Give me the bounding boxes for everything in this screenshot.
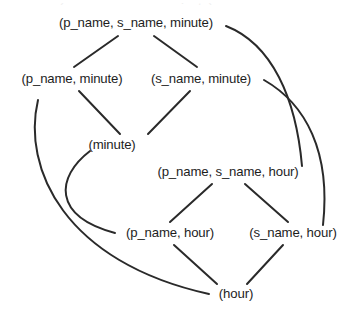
node-p_name-hour: (p_name, hour) bbox=[126, 226, 214, 239]
edge-snhr-hr bbox=[247, 245, 283, 284]
edge-pnmin-hr bbox=[35, 100, 209, 294]
edge-pnsnmin-pnsnhr bbox=[226, 26, 302, 166]
edge-pnsnmin-snmin bbox=[154, 36, 197, 67]
node-p_name-s_name-hour: (p_name, s_name, hour) bbox=[157, 165, 298, 178]
edge-snmin-snhr bbox=[264, 80, 324, 225]
edge-pnmin-min bbox=[79, 91, 120, 134]
node-s_name-hour: (s_name, hour) bbox=[249, 226, 336, 239]
edge-pnsnmin-pnmin bbox=[74, 36, 118, 67]
edge-min-pnhr bbox=[66, 151, 115, 233]
lattice-edges bbox=[0, 0, 355, 315]
node-p_name-s_name-minute: (p_name, s_name, minute) bbox=[59, 16, 213, 29]
edge-pnsnhr-pnhr bbox=[170, 184, 212, 222]
lattice-diagram: (p_name, s_name, minute) (p_name, s_name… bbox=[0, 0, 355, 315]
node-hour: (hour) bbox=[219, 287, 253, 300]
edge-snmin-min bbox=[148, 91, 190, 134]
node-p_name-minute: (p_name, minute) bbox=[22, 72, 123, 85]
node-s_name-minute: (s_name, minute) bbox=[151, 72, 251, 85]
edge-pnhr-hr bbox=[174, 245, 217, 284]
edge-pnsnhr-snhr bbox=[245, 184, 288, 222]
node-minute: (minute) bbox=[88, 138, 135, 151]
